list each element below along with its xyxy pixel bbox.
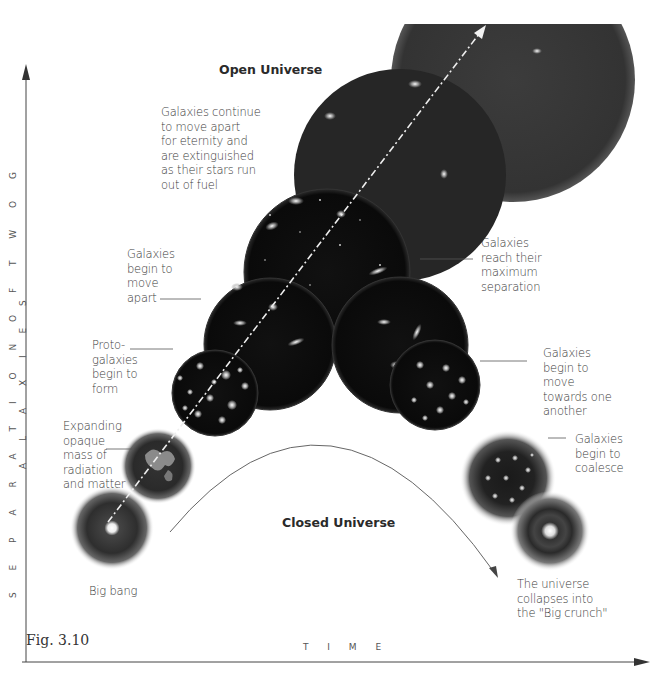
sphere-big-bang [70, 486, 154, 570]
y-axis-label: S E P A R A T I O N O F T W O G A L A X … [8, 155, 24, 605]
label-continue-apart: Galaxies continue to move apart for eter… [161, 105, 261, 192]
x-axis-arrow-icon [634, 658, 650, 666]
label-move-towards: Galaxies begin to move towards one anoth… [543, 346, 612, 419]
x-axis-label: T I M E [303, 642, 389, 652]
sphere-protogalaxies [172, 350, 258, 436]
label-expanding-opaque: Expanding opaque mass of radiation and m… [63, 419, 125, 492]
closed-universe-title: Closed Universe [282, 515, 395, 530]
label-big-bang: Big bang [89, 584, 137, 599]
label-begin-move-apart: Galaxies begin to move apart [127, 247, 175, 305]
label-big-crunch: The universe collapses into the "Big cru… [517, 577, 607, 621]
open-universe-title: Open Universe [219, 62, 322, 77]
sphere-move-towards [390, 340, 480, 430]
closed-universe-arc [170, 445, 494, 572]
label-max-separation: Galaxies reach their maximum separation [481, 236, 541, 294]
closed-arc-arrow-icon [489, 566, 498, 578]
label-protogalaxies: Proto- galaxies begin to form [92, 338, 138, 396]
figure-caption: Fig. 3.10 [26, 632, 89, 648]
x-axis [22, 658, 650, 666]
sphere-big-crunch [510, 491, 590, 571]
y-axis-arrow-icon [22, 64, 30, 80]
label-coalesce: Galaxies begin to coalesce [575, 432, 623, 476]
